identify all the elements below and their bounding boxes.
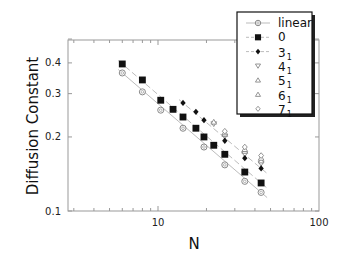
y-tick-label: 0.3 (45, 88, 61, 99)
series-6_1 (222, 130, 264, 160)
filled-square-marker (180, 114, 187, 121)
y-tick-label: 0.1 (45, 206, 61, 217)
filled-square-marker (241, 169, 248, 176)
x-tick-label: 100 (309, 217, 328, 228)
filled-diamond-marker (242, 155, 247, 161)
legend-label: 0 (278, 30, 286, 44)
filled-square-marker (210, 142, 217, 149)
filled-diamond-marker (193, 109, 198, 115)
open-circle-marker (201, 144, 207, 150)
filled-square-marker (139, 77, 146, 84)
filled-diamond-marker (180, 100, 185, 106)
open-circle-marker (242, 178, 248, 184)
filled-diamond-marker (258, 165, 263, 171)
y-axis-title: Diffusion Constant (24, 57, 42, 196)
filled-square-marker (119, 61, 126, 68)
open-circle-marker (119, 70, 125, 76)
open-circle-marker (222, 162, 228, 168)
filled-square-marker (255, 34, 261, 40)
open-circle-marker (180, 125, 186, 131)
filled-square-marker (258, 180, 265, 187)
x-tick-label: 10 (152, 217, 165, 228)
open-circle-marker (158, 107, 164, 113)
series-4_1 (211, 122, 264, 166)
x-axis-title: N (188, 235, 199, 253)
y-tick-label: 0.4 (45, 57, 61, 68)
filled-square-marker (157, 97, 164, 104)
open-circle-marker (255, 20, 260, 25)
filled-square-marker (221, 151, 228, 158)
filled-diamond-marker (201, 117, 206, 123)
legend-label: linear (278, 16, 312, 30)
filled-square-marker (201, 134, 208, 141)
legend: linear03141516171 (237, 12, 315, 119)
filled-diamond-marker (222, 138, 227, 144)
diffusion-constant-chart: 101000.10.20.30.4 N Diffusion Constant l… (0, 0, 346, 258)
open-circle-marker (139, 89, 145, 95)
y-tick-label: 0.2 (45, 131, 61, 142)
filled-square-marker (193, 125, 200, 132)
filled-square-marker (170, 106, 177, 113)
open-circle-marker (258, 189, 264, 195)
